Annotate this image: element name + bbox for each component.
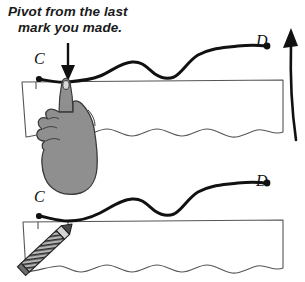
contour-line-top <box>39 45 266 82</box>
down-arrow-icon <box>61 43 75 81</box>
point-c-dot-bottom <box>36 213 42 219</box>
caption-line-1: Pivot from the last <box>8 4 128 20</box>
point-label-d-bottom: D <box>256 172 268 190</box>
caption-line-2: mark you made. <box>18 20 122 36</box>
point-label-d-top: D <box>256 32 268 50</box>
point-label-c-bottom: C <box>34 188 45 206</box>
up-arrow-icon <box>283 28 298 140</box>
diagram-canvas: Pivot from the last mark you made. C D C… <box>0 0 305 282</box>
point-label-c-top: C <box>34 50 45 68</box>
bottom-panel <box>17 180 283 276</box>
point-c-dot-top <box>36 76 42 82</box>
top-panel <box>22 28 298 194</box>
